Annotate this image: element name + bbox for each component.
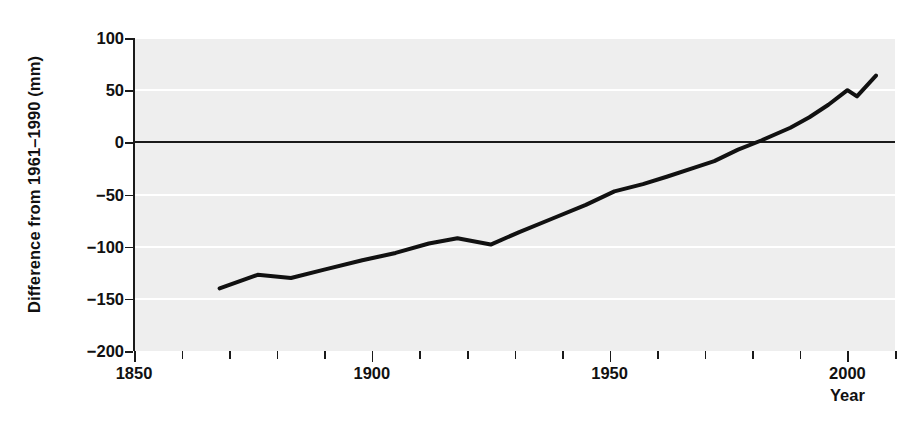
y-axis-tick	[125, 247, 133, 249]
y-axis-tick	[125, 195, 133, 197]
gridline	[134, 194, 895, 196]
x-axis-tick-minor	[752, 351, 754, 359]
x-tick-label: 2000	[807, 364, 887, 383]
y-tick-label: −150	[60, 289, 124, 308]
x-axis-tick-minor	[419, 351, 421, 359]
gridline	[134, 89, 895, 91]
x-tick-label: 1950	[570, 364, 650, 383]
x-axis-tick-major	[134, 351, 136, 362]
y-tick-label: −100	[60, 237, 124, 256]
x-tick-label: 1900	[332, 364, 412, 383]
x-axis-tick-major	[610, 351, 612, 362]
y-axis-tick	[125, 142, 133, 144]
x-axis-tick-major	[372, 351, 374, 362]
y-axis-line	[133, 38, 135, 351]
y-tick-label: −50	[60, 185, 124, 204]
x-axis-tick-minor	[324, 351, 326, 359]
y-tick-label: 0	[60, 133, 124, 152]
x-axis-tick-minor	[515, 351, 517, 359]
x-axis-tick-minor	[800, 351, 802, 359]
gridline	[134, 37, 895, 39]
y-axis-tick	[125, 351, 133, 353]
zero-reference-line	[134, 141, 895, 143]
sea-level-line-chart: 100500−50−100−150−200 1850190019502000 D…	[0, 0, 919, 421]
gridline	[134, 298, 895, 300]
x-axis-tick-minor	[467, 351, 469, 359]
x-axis-tick-minor	[657, 351, 659, 359]
x-axis-tick-minor	[895, 351, 897, 359]
y-tick-label: 100	[60, 29, 124, 48]
x-axis-tick-minor	[277, 351, 279, 359]
x-axis-tick-major	[847, 351, 849, 362]
x-axis-title: Year	[830, 386, 865, 405]
y-axis-tick	[125, 299, 133, 301]
y-axis-tick	[125, 38, 133, 40]
x-axis-tick-minor	[705, 351, 707, 359]
y-tick-label: −200	[60, 342, 124, 361]
x-axis-tick-minor	[182, 351, 184, 359]
x-axis-tick-minor	[562, 351, 564, 359]
y-axis-tick	[125, 90, 133, 92]
x-tick-label: 1850	[94, 364, 174, 383]
gridline	[134, 246, 895, 248]
y-axis-title: Difference from 1961–1990 (mm)	[25, 15, 44, 355]
x-axis-tick-minor	[229, 351, 231, 359]
y-tick-label: 50	[60, 81, 124, 100]
